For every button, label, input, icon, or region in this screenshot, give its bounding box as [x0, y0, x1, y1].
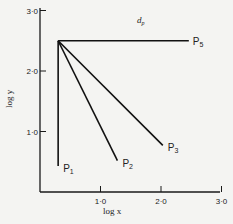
annotation-sub: p: [141, 20, 145, 26]
x-tick-label: 3·0: [216, 197, 228, 206]
chart: 1·02·03·01·02·03·0 P1P2P3P5 dp log x log…: [0, 0, 233, 224]
x-tick-label: 2·0: [155, 197, 167, 206]
label-p3: P3: [168, 142, 179, 154]
y-tick-label: 1·0: [26, 128, 38, 137]
line-p2: [58, 41, 117, 161]
annotation-dp: dp: [137, 15, 145, 26]
label-p1: P1: [63, 163, 74, 175]
y-tick-label: 2·0: [26, 67, 38, 76]
y-axis-label: log y: [4, 89, 14, 108]
x-axis-label: log x: [103, 206, 122, 216]
label-p5: P5: [193, 36, 204, 48]
line-labels: P1P2P3P5: [63, 36, 203, 175]
x-tick-label: 1·0: [95, 197, 107, 206]
line-p3: [58, 41, 163, 146]
label-p2: P2: [122, 158, 133, 170]
y-tick-label: 3·0: [26, 7, 38, 16]
